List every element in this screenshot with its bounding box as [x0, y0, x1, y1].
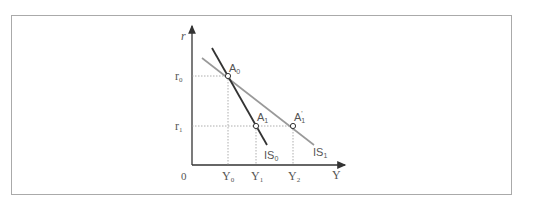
is0-curve [212, 48, 267, 145]
label-a1-prime: A1' [294, 110, 305, 124]
label-a0: A0 [229, 62, 240, 75]
label-is0: IS0 [264, 149, 278, 162]
x-axis-label: Y [332, 168, 341, 182]
point-a1-prime [290, 123, 295, 128]
label-a1: A1 [257, 111, 268, 124]
origin-label: 0 [181, 170, 187, 182]
tick-y0: Y0 [222, 169, 235, 184]
tick-y1: Y1 [251, 169, 264, 184]
point-a0 [225, 73, 230, 78]
tick-r1: r1 [175, 119, 183, 134]
tick-y2: Y2 [288, 169, 301, 184]
is-curve-diagram: r Y 0 r0 r1 Y0 Y1 Y2 A0 A1 A1' IS0 IS1 [0, 0, 556, 206]
label-is1: IS1 [313, 146, 327, 159]
tick-r0: r0 [175, 69, 183, 84]
y-axis-label: r [181, 29, 186, 43]
point-a1 [253, 123, 258, 128]
is1-curve [202, 58, 314, 145]
